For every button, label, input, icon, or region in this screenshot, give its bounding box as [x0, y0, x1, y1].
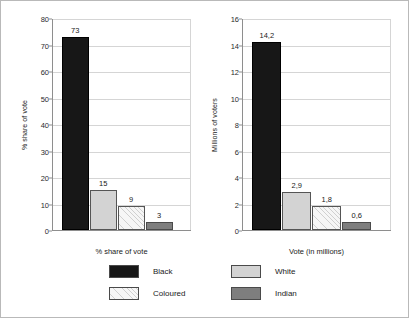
y-tick-label: 40	[41, 121, 49, 130]
y-tick-label: 10	[41, 200, 49, 209]
bar-indian[interactable]	[342, 222, 371, 230]
bar-slot: 9	[118, 19, 145, 230]
y-tick-label: 12	[231, 68, 239, 77]
x-axis-title-left: % share of vote	[52, 247, 191, 256]
bar-group-right: 14,22,91,80,6	[244, 19, 391, 230]
y-tick-label: 70	[41, 41, 49, 50]
legend-label: Coloured	[153, 289, 185, 298]
legend-label: Indian	[275, 289, 297, 298]
x-axis-title-right: Vote (in millions)	[242, 247, 391, 256]
chart-figure: % share of vote 01020304050607080 731593…	[0, 0, 409, 318]
legend-item-indian[interactable]: Indian	[231, 287, 339, 300]
bar-slot: 14,2	[252, 19, 281, 230]
bar-indian[interactable]	[146, 222, 173, 230]
y-tick-label: 80	[41, 15, 49, 24]
legend-swatch	[109, 265, 139, 278]
legend-item-black[interactable]: Black	[109, 265, 217, 278]
y-axis-ticks-right: 0246810121416	[220, 19, 242, 231]
bar-group-left: 731593	[54, 19, 191, 230]
bar-slot: 1,8	[312, 19, 341, 230]
y-tick-label: 60	[41, 68, 49, 77]
y-axis-ticks-left: 01020304050607080	[30, 19, 52, 231]
chart-panel-millions-of-voters: Millions of voters 0246810121416 14,22,9…	[209, 19, 391, 241]
chart-panel-share-of-vote: % share of vote 01020304050607080 731593…	[19, 19, 191, 241]
legend-swatch	[231, 265, 261, 278]
y-tick-label: 50	[41, 94, 49, 103]
legend-item-coloured[interactable]: Coloured	[109, 287, 217, 300]
y-tick-label: 20	[41, 174, 49, 183]
y-tick-label: 30	[41, 147, 49, 156]
bar-black[interactable]	[252, 42, 281, 230]
legend-item-white[interactable]: White	[231, 265, 339, 278]
bar-value-label: 0,6	[334, 211, 379, 220]
plot-area-left: 731593	[52, 19, 191, 231]
bar-black[interactable]	[62, 37, 89, 230]
bar-slot: 3	[146, 19, 173, 230]
legend-swatch	[231, 287, 261, 300]
y-tick-label: 14	[231, 41, 239, 50]
y-axis-title-left: % share of vote	[19, 19, 30, 231]
y-tick-label: 10	[231, 94, 239, 103]
bar-value-label: 3	[138, 211, 181, 220]
bar-slot: 73	[62, 19, 89, 230]
bar-slot: 0,6	[342, 19, 371, 230]
y-tick-label: 16	[231, 15, 239, 24]
legend-swatch	[109, 287, 139, 300]
plot-area-right: 14,22,91,80,6	[242, 19, 391, 231]
legend-label: White	[275, 267, 295, 276]
chart-legend: BlackWhiteColouredIndian	[109, 265, 339, 300]
y-axis-title-right: Millions of voters	[209, 19, 220, 231]
legend-label: Black	[153, 267, 173, 276]
